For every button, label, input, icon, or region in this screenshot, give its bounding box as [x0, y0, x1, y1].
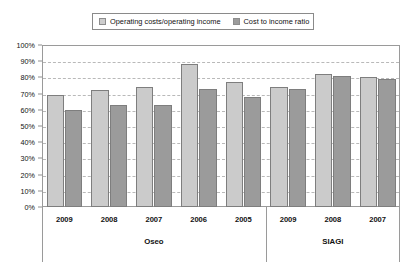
bar: [333, 76, 350, 207]
y-axis-tick-label: 90%: [21, 57, 35, 66]
bar: [110, 105, 127, 207]
bar: [270, 87, 287, 207]
legend-swatch-dark-icon: [233, 18, 240, 25]
y-axis-tick-label: 0%: [25, 203, 35, 212]
x-axis: 20092008200720062005200920082007OseoSIAG…: [42, 207, 400, 262]
x-axis-category-label: 2006: [190, 215, 207, 224]
bar: [154, 105, 171, 207]
y-axis-tick-label: 20%: [21, 170, 35, 179]
legend-label-operating-costs: Operating costs/operating income: [110, 17, 221, 26]
bar: [199, 89, 216, 207]
bar: [289, 89, 306, 207]
y-axis-tick-label: 60%: [21, 105, 35, 114]
bar: [378, 79, 395, 207]
y-axis-tick-label: 100%: [17, 41, 35, 50]
y-axis: 100%90%80%70%60%50%40%30%20%10%0%: [0, 45, 38, 207]
bar: [360, 77, 377, 207]
bar-chart: Operating costs/operating income Cost to…: [0, 0, 406, 264]
x-axis-category-label: 2008: [324, 215, 341, 224]
x-axis-category-label: 2005: [235, 215, 252, 224]
legend-item-operating-costs: Operating costs/operating income: [99, 17, 221, 26]
x-axis-category-label: 2007: [369, 215, 386, 224]
bar: [244, 97, 261, 207]
y-axis-tick-label: 70%: [21, 89, 35, 98]
y-axis-tick-label: 30%: [21, 154, 35, 163]
legend-label-cost-to-income: Cost to income ratio: [244, 17, 310, 26]
x-axis-group-separator: [266, 207, 267, 262]
bar: [136, 87, 153, 207]
bars-layer: [42, 45, 400, 207]
bar: [226, 82, 243, 207]
legend-item-cost-to-income: Cost to income ratio: [233, 17, 310, 26]
legend-swatch-light-icon: [99, 18, 106, 25]
x-axis-group-label: Oseo: [144, 237, 164, 246]
bar: [47, 95, 64, 207]
bar: [315, 74, 332, 207]
bar: [181, 64, 198, 207]
bar: [91, 90, 108, 207]
x-axis-category-label: 2007: [145, 215, 162, 224]
x-axis-category-label: 2008: [101, 215, 118, 224]
chart-legend: Operating costs/operating income Cost to…: [92, 13, 314, 30]
y-axis-tick-label: 50%: [21, 122, 35, 131]
x-axis-category-label: 2009: [56, 215, 73, 224]
y-axis-tick-label: 10%: [21, 186, 35, 195]
x-axis-category-label: 2009: [280, 215, 297, 224]
y-axis-tick-label: 40%: [21, 138, 35, 147]
x-axis-edge-line: [399, 207, 400, 262]
y-axis-tick-label: 80%: [21, 73, 35, 82]
x-axis-group-label: SIAGI: [322, 237, 343, 246]
x-axis-edge-line: [42, 207, 43, 262]
bar: [65, 110, 82, 207]
